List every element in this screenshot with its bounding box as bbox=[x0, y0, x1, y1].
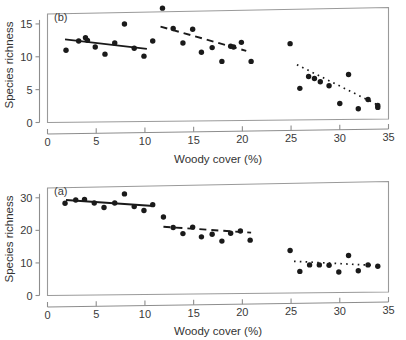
data-point bbox=[180, 40, 185, 45]
data-point bbox=[112, 200, 117, 205]
chart-panel-panel-b: 05101505101520253035Woody cover (%)Speci… bbox=[3, 5, 395, 165]
x-tick-label: 10 bbox=[139, 308, 151, 320]
data-point bbox=[356, 268, 361, 273]
x-axis: 05101520253035 bbox=[44, 124, 394, 148]
x-tick-label: 5 bbox=[93, 135, 99, 147]
data-point bbox=[336, 269, 341, 274]
x-tick-label: 25 bbox=[285, 305, 297, 317]
y-tick-label: 5 bbox=[26, 84, 32, 96]
plot-frame bbox=[48, 182, 389, 296]
data-point bbox=[326, 83, 331, 88]
data-point bbox=[312, 76, 317, 81]
x-tick-label: 5 bbox=[93, 308, 99, 320]
data-point bbox=[63, 48, 68, 53]
data-point bbox=[228, 231, 233, 236]
panel-label: (a) bbox=[54, 185, 67, 197]
y-tick-label: 0 bbox=[26, 117, 32, 129]
y-tick-label: 15 bbox=[20, 18, 32, 30]
y-axis-title: Species richness bbox=[3, 195, 15, 282]
data-point bbox=[190, 26, 195, 31]
data-point bbox=[92, 200, 97, 205]
data-point bbox=[287, 41, 292, 46]
data-point bbox=[150, 38, 155, 43]
y-tick-label: 10 bbox=[20, 51, 32, 63]
data-point bbox=[101, 205, 106, 210]
data-point bbox=[337, 101, 342, 106]
data-point bbox=[102, 51, 107, 56]
x-tick-label: 20 bbox=[236, 133, 248, 145]
data-point bbox=[238, 228, 243, 233]
x-tick-label: 35 bbox=[382, 131, 394, 143]
data-point bbox=[219, 59, 224, 64]
data-point bbox=[132, 204, 137, 209]
y-axis-title: Species richness bbox=[3, 21, 15, 108]
data-point bbox=[365, 262, 370, 267]
data-point bbox=[170, 26, 175, 31]
figure-container: 05101505101520253035Woody cover (%)Speci… bbox=[0, 0, 406, 340]
x-tick-label: 10 bbox=[139, 135, 151, 147]
x-tick-label: 0 bbox=[44, 136, 50, 148]
x-tick-label: 15 bbox=[188, 134, 200, 146]
data-point bbox=[122, 191, 127, 196]
data-point bbox=[231, 44, 236, 49]
x-tick-label: 35 bbox=[382, 304, 394, 316]
data-point bbox=[209, 232, 214, 237]
x-tick-label: 25 bbox=[285, 132, 297, 144]
data-point bbox=[375, 105, 380, 110]
data-point bbox=[326, 263, 331, 268]
data-point bbox=[247, 237, 252, 242]
y-tick-label: 0 bbox=[26, 290, 32, 302]
panel-label: (b) bbox=[54, 11, 67, 23]
x-tick-label: 0 bbox=[44, 309, 50, 321]
data-point bbox=[375, 263, 380, 268]
data-point bbox=[112, 40, 117, 45]
x-tick-label: 20 bbox=[236, 306, 248, 318]
data-point bbox=[82, 197, 87, 202]
data-point bbox=[297, 86, 302, 91]
data-point bbox=[170, 225, 175, 230]
data-point bbox=[190, 224, 195, 229]
x-tick-label: 30 bbox=[334, 132, 346, 144]
data-point bbox=[73, 197, 78, 202]
data-point bbox=[248, 59, 253, 64]
data-point bbox=[199, 49, 204, 54]
y-tick-label: 20 bbox=[20, 224, 32, 236]
data-point bbox=[306, 74, 311, 79]
data-point bbox=[141, 208, 146, 213]
data-point bbox=[307, 262, 312, 267]
x-tick-label: 30 bbox=[334, 305, 346, 317]
y-tick-label: 30 bbox=[20, 192, 32, 204]
data-point bbox=[141, 53, 146, 58]
data-point bbox=[62, 201, 67, 206]
data-point bbox=[209, 45, 214, 50]
data-point bbox=[93, 44, 98, 49]
x-axis-title: Woody cover (%) bbox=[174, 153, 262, 165]
data-point bbox=[287, 248, 292, 253]
chart-panel-panel-a: 010203005101520253035Woody cover (%)Spec… bbox=[3, 182, 395, 338]
data-point bbox=[180, 231, 185, 236]
data-point bbox=[297, 269, 302, 274]
data-point bbox=[219, 238, 224, 243]
data-point bbox=[85, 38, 90, 43]
plot-frame bbox=[48, 8, 389, 123]
data-point bbox=[346, 253, 351, 258]
data-point bbox=[150, 202, 155, 207]
x-tick-label: 15 bbox=[188, 307, 200, 319]
data-point bbox=[317, 262, 322, 267]
data-point bbox=[346, 72, 351, 77]
species-richness-woody-cover-figure: 05101505101520253035Woody cover (%)Speci… bbox=[0, 0, 406, 340]
data-point bbox=[318, 79, 323, 84]
data-point bbox=[76, 38, 81, 43]
data-point bbox=[122, 21, 127, 26]
y-axis: 051015 bbox=[20, 18, 39, 129]
data-point bbox=[199, 234, 204, 239]
y-axis: 0102030 bbox=[20, 192, 39, 302]
data-point bbox=[132, 46, 137, 51]
data-point bbox=[239, 40, 244, 45]
data-point bbox=[356, 106, 361, 111]
data-point bbox=[365, 97, 370, 102]
x-axis: 05101520253035 bbox=[44, 297, 394, 321]
y-tick-label: 10 bbox=[20, 257, 32, 269]
data-point bbox=[161, 214, 166, 219]
data-point bbox=[160, 5, 165, 10]
